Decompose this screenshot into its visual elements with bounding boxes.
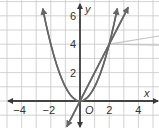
y-tick-label: 6	[70, 10, 76, 22]
x-tick-label: 2	[106, 104, 112, 116]
y-axis-label: y	[84, 3, 92, 15]
y-tick-label: 4	[70, 38, 76, 50]
graph: −4−224246Oxy	[0, 0, 159, 128]
y-tick-label: 2	[70, 67, 76, 79]
x-tick-label: −4	[13, 104, 26, 116]
x-axis-label: x	[143, 87, 150, 99]
x-tick-label: 4	[135, 104, 141, 116]
line-y-2x-lower-arrow	[67, 7, 128, 126]
callout-line-upper	[109, 36, 159, 44]
x-tick-label: −2	[43, 104, 56, 116]
origin-label: O	[85, 104, 94, 116]
